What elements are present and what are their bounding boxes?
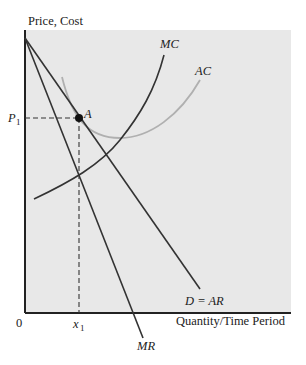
demand-label: D = AR bbox=[184, 294, 224, 308]
point-a-label: A bbox=[83, 107, 92, 121]
x1-label: x 1 bbox=[72, 317, 85, 333]
ac-label: AC bbox=[194, 64, 212, 78]
svg-text:1: 1 bbox=[80, 323, 85, 333]
origin-label: 0 bbox=[16, 316, 22, 330]
economics-diagram: Price, Cost Quantity/Time Period 0 MC AC… bbox=[0, 0, 306, 365]
mr-label: MR bbox=[136, 339, 155, 353]
y-axis-label: Price, Cost bbox=[28, 14, 83, 28]
svg-text:P: P bbox=[7, 111, 16, 125]
p1-label: P 1 bbox=[7, 111, 21, 127]
svg-text:x: x bbox=[72, 317, 79, 331]
mc-label: MC bbox=[159, 37, 179, 51]
svg-text:1: 1 bbox=[16, 117, 21, 127]
point-a-marker bbox=[75, 114, 83, 122]
x-axis-label: Quantity/Time Period bbox=[176, 314, 286, 328]
